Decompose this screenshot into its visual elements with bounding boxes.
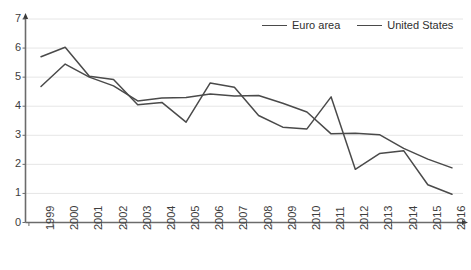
x-tick-label: 2011	[335, 206, 346, 230]
x-tick-label: 2012	[359, 205, 370, 229]
x-tick-label: 2003	[142, 205, 153, 229]
x-tick-label: 2015	[432, 205, 443, 229]
x-tick-label: 2002	[118, 205, 129, 229]
x-tick-label: 2014	[408, 205, 419, 229]
x-tick-label: 1999	[45, 205, 56, 229]
legend-item-united-states[interactable]: United States	[357, 20, 453, 31]
x-tick-label: 2004	[166, 205, 177, 229]
x-tick-label: 2005	[190, 205, 201, 229]
chart-legend: Euro area United States	[262, 20, 453, 31]
x-axis-tick-labels: 1999200020012002200320042005200620072008…	[0, 0, 471, 270]
legend-label-united-states: United States	[387, 20, 453, 31]
x-tick-label: 2016	[456, 205, 467, 229]
x-tick-label: 2010	[311, 205, 322, 229]
x-tick-label: 2006	[214, 205, 225, 229]
x-tick-label: 2013	[383, 205, 394, 229]
x-tick-label: 2008	[263, 205, 274, 229]
x-tick-label: 2007	[238, 205, 249, 229]
x-tick-label: 2009	[287, 205, 298, 229]
legend-line-icon-united-states	[357, 25, 382, 26]
line-chart: 01234567 1999200020012002200320042005200…	[0, 0, 471, 270]
legend-label-euro-area: Euro area	[292, 20, 340, 31]
legend-line-icon-euro-area	[262, 25, 287, 26]
legend-item-euro-area[interactable]: Euro area	[262, 20, 340, 31]
x-tick-label: 2000	[69, 205, 80, 229]
x-tick-label: 2001	[93, 205, 104, 229]
